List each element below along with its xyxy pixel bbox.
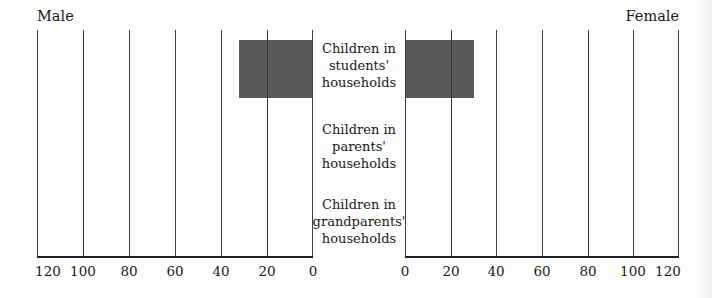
category-line: grandparents' (309, 213, 409, 230)
category-line: Children in (309, 121, 409, 138)
category-label-parents: Children in parents' households (309, 121, 409, 172)
male-bar (239, 40, 313, 98)
category-line: households (309, 155, 409, 172)
female-panel (405, 30, 679, 258)
gridline (588, 30, 589, 258)
tick-label: 100 (613, 264, 653, 279)
tick-label: 20 (431, 264, 471, 279)
gridline (129, 30, 130, 258)
female-axis-title: Female (626, 8, 679, 24)
category-line: Children in (309, 196, 409, 213)
category-line: parents' (309, 138, 409, 155)
tick-label: 60 (522, 264, 562, 279)
category-line: households (309, 74, 409, 91)
gridline (405, 30, 406, 258)
category-label-grandparents: Children in grandparents' households (309, 196, 409, 247)
gridline (83, 30, 84, 258)
gridline (451, 30, 452, 258)
category-label-students: Children in students' households (309, 40, 409, 91)
gridline (542, 30, 543, 258)
tick-label: 20 (247, 264, 287, 279)
tick-label: 60 (155, 264, 195, 279)
pyramid-chart-figure: Male Female 120 100 80 60 40 20 0 0 20 4 (0, 0, 712, 298)
gridline (678, 30, 679, 258)
category-line: students' (309, 57, 409, 74)
tick-label: 120 (28, 264, 68, 279)
gridline (37, 30, 38, 258)
gridline (312, 30, 313, 258)
tick-label: 80 (109, 264, 149, 279)
female-x-axis-line (405, 256, 679, 258)
category-line: households (309, 230, 409, 247)
tick-label: 120 (648, 264, 688, 279)
tick-label: 0 (385, 264, 425, 279)
tick-label: 80 (568, 264, 608, 279)
female-bar (405, 40, 474, 98)
tick-label: 0 (293, 264, 333, 279)
scan-artifact-band (699, 0, 712, 298)
gridline (496, 30, 497, 258)
tick-label: 40 (476, 264, 516, 279)
male-axis-title: Male (37, 8, 74, 24)
category-line: Children in (309, 40, 409, 57)
gridline (633, 30, 634, 258)
gridline (221, 30, 222, 258)
gridline (175, 30, 176, 258)
male-panel (37, 30, 313, 258)
male-x-axis-line (37, 256, 313, 258)
tick-label: 100 (63, 264, 103, 279)
gridline (267, 30, 268, 258)
tick-label: 40 (201, 264, 241, 279)
